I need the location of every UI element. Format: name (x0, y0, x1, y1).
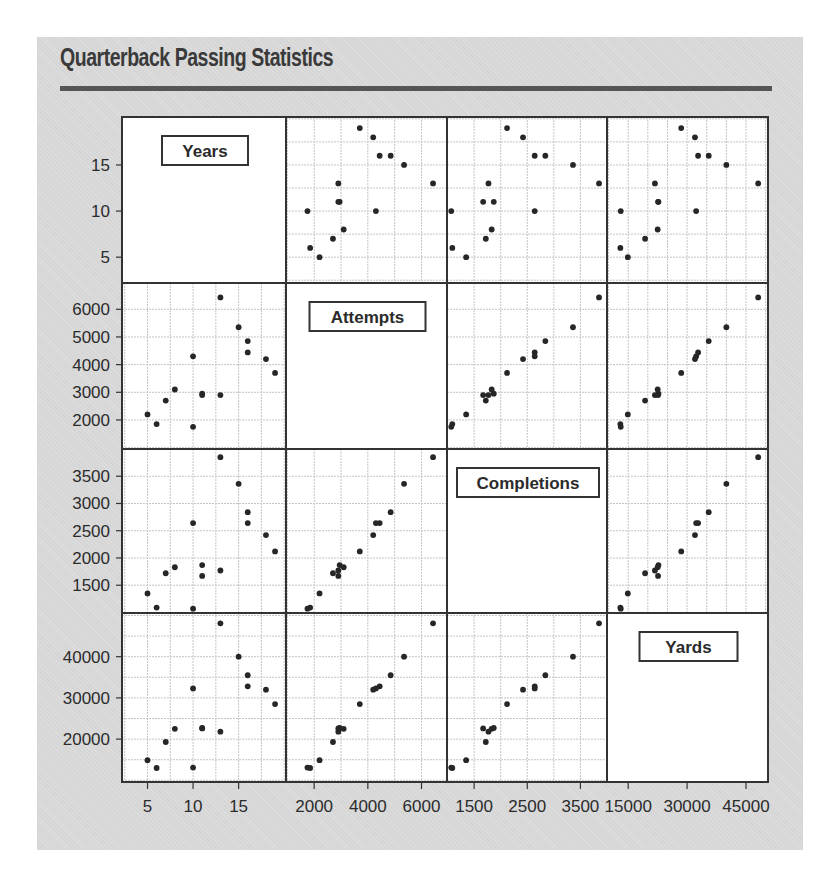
data-point (172, 387, 178, 393)
data-point (448, 208, 454, 214)
data-point (330, 570, 336, 576)
data-point (199, 392, 205, 398)
data-point (199, 573, 205, 579)
data-point (373, 208, 379, 214)
data-point (263, 687, 269, 693)
data-point (190, 765, 196, 771)
y-tick-label: 2000 (72, 411, 110, 430)
x-tick-label: 15000 (605, 797, 652, 816)
y-tick-label: 2500 (72, 522, 110, 541)
data-point (305, 606, 311, 612)
data-point (489, 726, 495, 732)
data-point (218, 454, 224, 460)
data-point (272, 701, 278, 707)
y-tick-label: 20000 (63, 730, 110, 749)
data-point (463, 254, 469, 260)
data-point (755, 454, 761, 460)
y-tick-label: 10 (91, 202, 110, 221)
data-point (678, 370, 684, 376)
data-point (335, 568, 341, 574)
data-point (218, 392, 224, 398)
data-point (618, 606, 624, 612)
data-point (145, 412, 151, 418)
data-point (236, 481, 242, 487)
data-point (373, 520, 379, 526)
data-point (655, 227, 661, 233)
x-tick-label: 15 (229, 797, 248, 816)
data-point (532, 208, 538, 214)
data-point (190, 353, 196, 359)
data-point (692, 134, 698, 140)
data-point (596, 620, 602, 626)
data-point (693, 353, 699, 359)
data-point (335, 729, 341, 735)
data-point (341, 726, 347, 732)
data-point (357, 549, 363, 555)
data-point (370, 532, 376, 538)
data-point (163, 739, 169, 745)
data-point (236, 654, 242, 660)
variable-label-years: Years (182, 142, 227, 161)
y-tick-label: 40000 (63, 648, 110, 667)
data-point (542, 153, 548, 159)
data-point (448, 765, 454, 771)
x-tick-label: 5 (143, 797, 152, 816)
data-point (625, 590, 631, 596)
data-point (317, 254, 323, 260)
data-point (190, 424, 196, 430)
data-point (489, 387, 495, 393)
data-point (695, 153, 701, 159)
x-tick-label: 3500 (562, 797, 600, 816)
data-point (504, 125, 510, 131)
variable-label-completions: Completions (477, 474, 580, 493)
data-point (307, 245, 313, 251)
data-point (330, 236, 336, 242)
data-point (655, 573, 661, 579)
y-tick-label: 4000 (72, 356, 110, 375)
data-point (483, 739, 489, 745)
y-tick-label: 6000 (72, 300, 110, 319)
x-tick-label: 30000 (663, 797, 710, 816)
data-point (341, 564, 347, 570)
data-point (388, 153, 394, 159)
data-point (377, 153, 383, 159)
x-tick-label: 6000 (403, 797, 441, 816)
data-point (245, 683, 251, 689)
data-point (723, 162, 729, 168)
data-point (570, 654, 576, 660)
data-point (388, 672, 394, 678)
data-point (145, 590, 151, 596)
data-point (655, 564, 661, 570)
data-point (263, 356, 269, 362)
data-point (596, 181, 602, 187)
y-tick-label: 3000 (72, 494, 110, 513)
data-point (755, 181, 761, 187)
data-point (504, 701, 510, 707)
data-point (370, 134, 376, 140)
data-point (596, 294, 602, 300)
data-point (532, 153, 538, 159)
data-point (430, 181, 436, 187)
y-tick-label: 3500 (72, 467, 110, 486)
y-tick-label: 1500 (72, 576, 110, 595)
data-point (723, 324, 729, 330)
x-tick-label: 1500 (455, 797, 493, 816)
data-point (401, 162, 407, 168)
data-point (330, 739, 336, 745)
data-point (520, 134, 526, 140)
data-point (317, 757, 323, 763)
x-tick-label: 10 (184, 797, 203, 816)
data-point (706, 509, 712, 515)
data-point (305, 208, 311, 214)
data-point (520, 356, 526, 362)
data-point (463, 757, 469, 763)
data-point (652, 181, 658, 187)
data-point (463, 412, 469, 418)
data-point (373, 686, 379, 692)
y-tick-label: 5000 (72, 328, 110, 347)
data-point (542, 672, 548, 678)
data-point (245, 672, 251, 678)
data-point (625, 412, 631, 418)
data-point (263, 532, 269, 538)
x-tick-label: 45000 (722, 797, 769, 816)
